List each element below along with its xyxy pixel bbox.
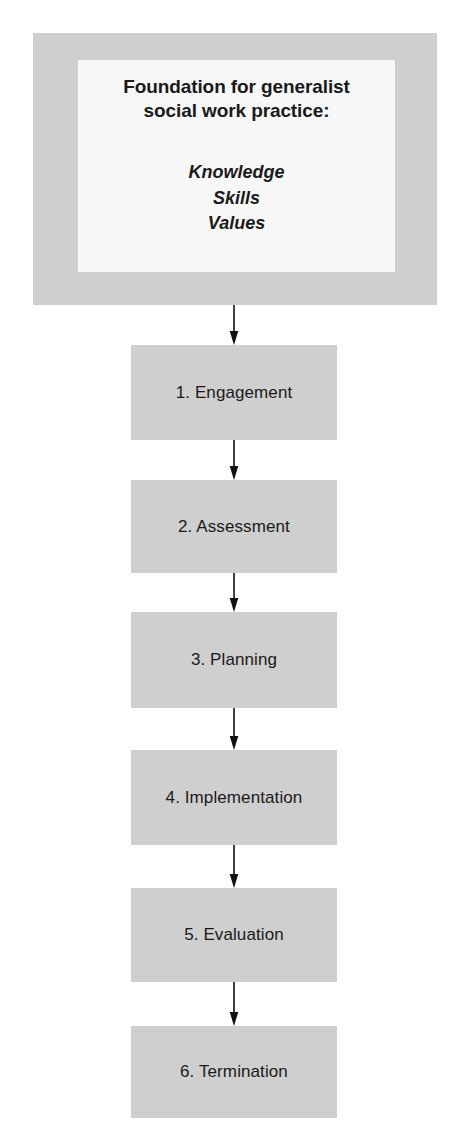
- foundation-item-skills: Skills: [78, 186, 395, 212]
- foundation-inner-panel: Foundation for generalist social work pr…: [78, 60, 395, 272]
- step-label-engagement: 1. Engagement: [176, 383, 293, 403]
- arrow-step-4-to-step-5: [228, 845, 240, 888]
- step-label-termination: 6. Termination: [180, 1062, 288, 1082]
- step-box-engagement[interactable]: 1. Engagement: [131, 345, 337, 440]
- step-label-evaluation: 5. Evaluation: [184, 925, 284, 945]
- foundation-block: Foundation for generalist social work pr…: [33, 33, 437, 305]
- step-box-planning[interactable]: 3. Planning: [131, 612, 337, 708]
- foundation-title: Foundation for generalist social work pr…: [78, 75, 395, 124]
- step-box-implementation[interactable]: 4. Implementation: [131, 750, 337, 845]
- arrow-step-1-to-step-2: [228, 440, 240, 480]
- flowchart-canvas: Foundation for generalist social work pr…: [0, 0, 462, 1137]
- step-label-implementation: 4. Implementation: [166, 788, 303, 808]
- foundation-title-line-1: Foundation for generalist: [78, 75, 395, 99]
- step-box-evaluation[interactable]: 5. Evaluation: [131, 888, 337, 982]
- foundation-item-list: Knowledge Skills Values: [78, 160, 395, 238]
- foundation-title-line-2: social work practice:: [78, 99, 395, 123]
- foundation-item-knowledge: Knowledge: [78, 160, 395, 186]
- step-label-planning: 3. Planning: [191, 650, 277, 670]
- step-label-assessment: 2. Assessment: [178, 517, 290, 537]
- arrow-foundation-to-step-1: [228, 305, 240, 345]
- arrow-step-5-to-step-6: [228, 982, 240, 1026]
- arrow-step-2-to-step-3: [228, 573, 240, 612]
- arrow-step-3-to-step-4: [228, 708, 240, 750]
- step-box-assessment[interactable]: 2. Assessment: [131, 480, 337, 573]
- foundation-item-values: Values: [78, 211, 395, 237]
- step-box-termination[interactable]: 6. Termination: [131, 1026, 337, 1118]
